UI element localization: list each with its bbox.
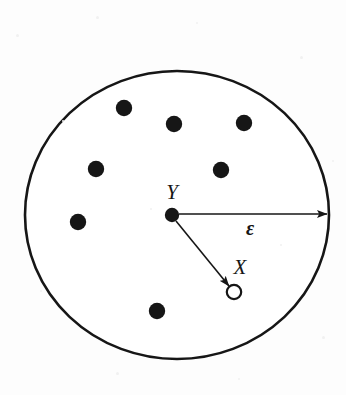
label-radius-epsilon: ε xyxy=(246,217,255,239)
population-point xyxy=(166,116,182,132)
figure-canvas: Y ε X xyxy=(0,0,346,395)
population-point xyxy=(149,303,165,319)
population-point xyxy=(88,161,104,177)
population-point xyxy=(116,100,132,116)
sample-point-marker-x xyxy=(227,285,241,299)
center-point-marker-y xyxy=(165,208,179,222)
population-point xyxy=(213,162,229,178)
label-sample-point-x: X xyxy=(233,255,248,279)
population-point xyxy=(70,214,86,230)
population-point xyxy=(236,115,252,131)
epsilon-neighborhood-diagram: Y ε X xyxy=(0,0,346,395)
